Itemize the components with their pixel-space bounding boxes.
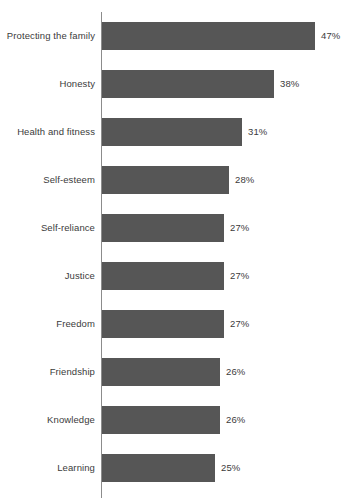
bar-track	[102, 262, 224, 290]
bar-value-label: 27%	[230, 310, 249, 338]
bar-category-label: Justice	[65, 262, 95, 290]
bar-category-label: Self-esteem	[43, 166, 95, 194]
bar-fill	[102, 454, 215, 482]
bar-category-label: Health and fitness	[17, 118, 95, 146]
bar-track	[102, 406, 220, 434]
bar-fill	[102, 70, 274, 98]
bar-fill	[102, 406, 220, 434]
bar-chart: Protecting the family47%Honesty38%Health…	[0, 0, 344, 501]
bar-value-label: 25%	[221, 454, 240, 482]
bar-track	[102, 22, 315, 50]
bar-track	[102, 214, 224, 242]
bar-row: Learning25%	[0, 454, 344, 482]
bar-row: Self-reliance27%	[0, 214, 344, 242]
bar-track	[102, 310, 224, 338]
bar-category-label: Knowledge	[47, 406, 95, 434]
bar-fill	[102, 214, 224, 242]
bar-fill	[102, 166, 229, 194]
bar-track	[102, 70, 274, 98]
bar-row: Friendship26%	[0, 358, 344, 386]
bar-fill	[102, 310, 224, 338]
bars-layer: Protecting the family47%Honesty38%Health…	[0, 0, 344, 501]
bar-value-label: 26%	[226, 406, 245, 434]
bar-fill	[102, 358, 220, 386]
bar-category-label: Honesty	[59, 70, 95, 98]
bar-value-label: 26%	[226, 358, 245, 386]
bar-row: Honesty38%	[0, 70, 344, 98]
bar-row: Freedom27%	[0, 310, 344, 338]
bar-fill	[102, 22, 315, 50]
bar-value-label: 28%	[235, 166, 254, 194]
bar-fill	[102, 118, 242, 146]
bar-track	[102, 358, 220, 386]
bar-category-label: Friendship	[50, 358, 95, 386]
bar-track	[102, 166, 229, 194]
bar-value-label: 27%	[230, 214, 249, 242]
bar-value-label: 27%	[230, 262, 249, 290]
bar-row: Knowledge26%	[0, 406, 344, 434]
bar-category-label: Learning	[57, 454, 95, 482]
bar-value-label: 31%	[248, 118, 267, 146]
bar-value-label: 47%	[321, 22, 340, 50]
bar-row: Justice27%	[0, 262, 344, 290]
bar-track	[102, 118, 242, 146]
bar-fill	[102, 262, 224, 290]
bar-category-label: Freedom	[56, 310, 95, 338]
bar-category-label: Self-reliance	[41, 214, 95, 242]
bar-row: Self-esteem28%	[0, 166, 344, 194]
bar-row: Health and fitness31%	[0, 118, 344, 146]
bar-row: Protecting the family47%	[0, 22, 344, 50]
bar-track	[102, 454, 215, 482]
bar-value-label: 38%	[280, 70, 299, 98]
bar-category-label: Protecting the family	[7, 22, 95, 50]
